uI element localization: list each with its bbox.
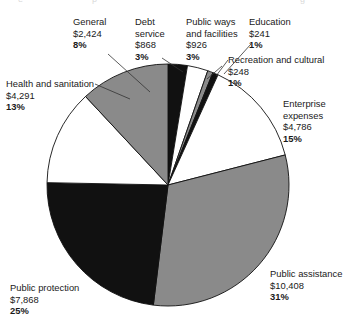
slice-label-public-protection: Public protection $7,868 25%: [10, 282, 79, 317]
slice-label-education-value: $241: [249, 28, 291, 40]
slice-label-public-assistance-pct: 31%: [270, 291, 342, 303]
slice-label-public-ways-name: Public ways and facilities: [186, 16, 248, 39]
slice-label-education-name: Education: [249, 16, 291, 28]
slice-label-public-assistance-name: Public assistance: [270, 268, 342, 280]
slice-label-recreation-name: Recreation and cultural: [228, 54, 324, 66]
slice-label-enterprise-pct: 15%: [283, 133, 341, 145]
slice-label-general-pct: 8%: [73, 39, 106, 51]
slice-label-education-pct: 1%: [249, 39, 291, 51]
slice-label-recreation-pct: 1%: [228, 77, 324, 89]
slice-label-debt-service: Debt service $868 3%: [135, 16, 165, 62]
slice-label-health: Health and sanitation $4,291 13%: [6, 78, 94, 113]
slice-label-debt-service-pct: 3%: [135, 51, 165, 63]
slice-label-public-protection-name: Public protection: [10, 282, 79, 294]
pie-chart-figure: epg General $2,424 8% Debt service $868 …: [0, 0, 343, 332]
slice-label-enterprise-value: $4,786: [283, 121, 341, 133]
slice-label-public-assistance: Public assistance $10,408 31%: [270, 268, 342, 303]
slice-label-education: Education $241 1%: [249, 16, 291, 51]
slice-label-general: General $2,424 8%: [73, 16, 106, 51]
slice-label-public-ways-value: $926: [186, 39, 248, 51]
slice-label-debt-service-name-line2: service: [135, 28, 165, 40]
slice-label-health-value: $4,291: [6, 90, 94, 102]
slice-label-public-assistance-value: $10,408: [270, 280, 342, 292]
slice-label-enterprise: Enterprise expenses $4,786 15%: [283, 98, 341, 144]
slice-label-recreation-value: $248: [228, 66, 324, 78]
slice-label-general-value: $2,424: [73, 28, 106, 40]
slice-label-public-protection-value: $7,868: [10, 294, 79, 306]
slice-label-health-name: Health and sanitation: [6, 78, 94, 90]
slice-label-health-pct: 13%: [6, 101, 94, 113]
slice-label-debt-service-name-line1: Debt: [135, 16, 165, 28]
slice-label-recreation: Recreation and cultural $248 1%: [228, 54, 324, 89]
leader-line-recreation: [216, 60, 228, 76]
slice-label-enterprise-name: Enterprise expenses: [283, 98, 341, 121]
slice-label-public-protection-pct: 25%: [10, 305, 79, 317]
slice-label-debt-service-value: $868: [135, 39, 165, 51]
slice-label-general-name: General: [73, 16, 106, 28]
